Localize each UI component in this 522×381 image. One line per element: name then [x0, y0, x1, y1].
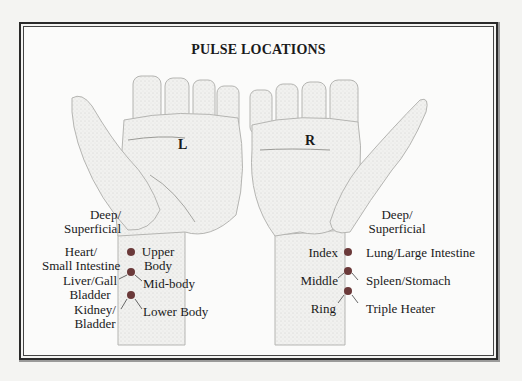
right-organ-2: Spleen/Stomach [366, 274, 451, 288]
right-finger-3: Ring [311, 302, 336, 316]
left-region-1-line2: Body [138, 259, 178, 273]
right-pulse-dot-1 [344, 248, 352, 256]
left-hand-letter: L [178, 137, 187, 153]
left-pulse-dot-3 [127, 291, 135, 299]
right-depth-label: Deep/ Superficial [362, 208, 432, 236]
left-organ-1-line2: Small Intestine [42, 259, 120, 273]
left-organ-3-line1: Kidney/ [70, 303, 120, 317]
left-organ-1: Heart/ Small Intestine [42, 245, 120, 273]
right-pulse-dot-2 [344, 267, 352, 275]
left-region-1-line1: Upper [138, 245, 178, 259]
left-pulse-dot-2 [127, 268, 135, 276]
left-organ-3-line2: Bladder [70, 317, 120, 331]
right-finger-2: Middle [300, 274, 338, 288]
left-region-1: Upper Body [138, 245, 178, 273]
right-depth-line1: Deep/ [362, 208, 432, 222]
left-region-2: Mid-body [143, 277, 195, 291]
left-depth-label: Deep/ Superficial [64, 208, 121, 236]
right-organ-1: Lung/Large Intestine [366, 246, 475, 260]
right-hand-letter: R [305, 133, 315, 149]
left-region-3: Lower Body [143, 305, 208, 319]
left-pulse-dot-1 [127, 248, 135, 256]
right-pulse-dot-3 [344, 287, 352, 295]
right-organ-3: Triple Heater [366, 302, 435, 316]
right-finger-1: Index [308, 246, 338, 260]
left-depth-line1: Deep/ [64, 208, 121, 222]
left-organ-2: Liver/Gall Bladder [60, 274, 120, 302]
left-organ-3: Kidney/ Bladder [70, 303, 120, 331]
right-depth-line2: Superficial [362, 222, 432, 236]
left-organ-1-line1: Heart/ [42, 245, 120, 259]
left-organ-2-line1: Liver/Gall [60, 274, 120, 288]
left-depth-line2: Superficial [64, 222, 121, 236]
left-organ-2-line2: Bladder [60, 288, 120, 302]
